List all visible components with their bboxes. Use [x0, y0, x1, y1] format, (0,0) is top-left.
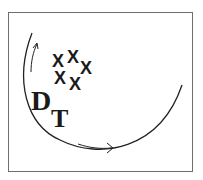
x-marker: X	[69, 74, 81, 94]
x-marker: X	[80, 58, 92, 78]
diagram-canvas: X X X X X D T	[0, 0, 203, 180]
label-subscript-t: T	[51, 104, 68, 133]
arrow-up-icon	[31, 43, 38, 72]
x-markers: X X X X X	[52, 47, 92, 94]
label-d: D	[31, 85, 51, 116]
x-marker: X	[54, 68, 66, 88]
x-marker: X	[67, 47, 79, 67]
